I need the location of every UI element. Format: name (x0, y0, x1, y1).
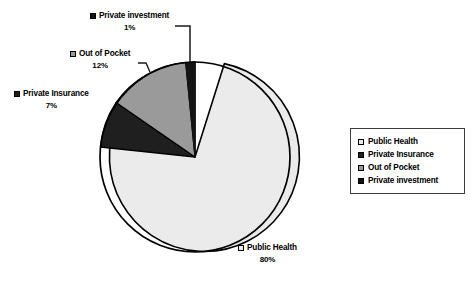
legend-swatch-private-investment-icon (358, 178, 364, 184)
callout-percent-private-insurance: 7% (14, 101, 89, 111)
leader-line-out-of-pocket (138, 63, 150, 72)
callout-percent-public-health: 80% (238, 255, 297, 265)
legend: Public Health Private Insurance Out of P… (350, 128, 465, 194)
legend-label-out-of-pocket: Out of Pocket (368, 163, 419, 172)
callout-label-public-health: Public Health (247, 243, 297, 253)
swatch-private-insurance-icon (14, 91, 20, 97)
legend-item-private-insurance[interactable]: Private Insurance (358, 148, 459, 161)
swatch-public-health-icon (238, 245, 244, 251)
callout-label-out-of-pocket: Out of Pocket (79, 49, 130, 59)
legend-item-public-health[interactable]: Public Health (358, 135, 459, 148)
leader-line-private-investment (175, 26, 190, 62)
legend-swatch-public-health-icon (358, 139, 364, 145)
legend-label-private-insurance: Private Insurance (368, 150, 434, 159)
callout-percent-out-of-pocket: 12% (70, 61, 130, 71)
pie-chart-figure: Private investment 1% Out of Pocket 12% … (0, 0, 473, 284)
legend-label-private-investment: Private investment (368, 176, 438, 185)
legend-swatch-private-insurance-icon (358, 152, 364, 158)
swatch-out-of-pocket-icon (70, 51, 76, 57)
swatch-private-investment-icon (90, 13, 96, 19)
callout-out-of-pocket: Out of Pocket 12% (70, 49, 130, 71)
callout-percent-private-investment: 1% (90, 23, 169, 33)
legend-item-out-of-pocket[interactable]: Out of Pocket (358, 161, 459, 174)
callout-label-private-insurance: Private Insurance (23, 89, 89, 99)
legend-label-public-health: Public Health (368, 137, 418, 146)
callout-label-private-investment: Private investment (99, 11, 169, 21)
callout-private-insurance: Private Insurance 7% (14, 89, 89, 111)
legend-item-private-investment[interactable]: Private investment (358, 174, 459, 187)
legend-swatch-out-of-pocket-icon (358, 165, 364, 171)
callout-private-investment: Private investment 1% (90, 11, 169, 33)
callout-public-health: Public Health 80% (238, 243, 297, 265)
